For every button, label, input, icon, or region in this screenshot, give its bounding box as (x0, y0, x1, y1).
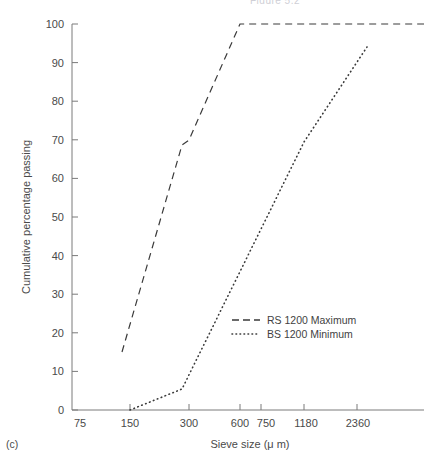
y-tick-label: 60 (52, 172, 64, 184)
chart-figure: Figure 5.2 100 90 80 70 60 (0, 0, 441, 467)
x-tick-label: 600 (231, 417, 249, 429)
x-tick-label: 1180 (294, 417, 318, 429)
x-tick-label: 300 (180, 417, 198, 429)
y-tick-label: 20 (52, 327, 64, 339)
axis-lines (72, 24, 424, 410)
y-tick-label: 50 (52, 211, 64, 223)
series-line-maximum (122, 24, 424, 352)
x-tick-label: 750 (257, 417, 275, 429)
y-tick-label: 70 (52, 134, 64, 146)
y-tick-label: 0 (58, 404, 64, 416)
x-tick-label: 2360 (346, 417, 370, 429)
x-axis-ticks (130, 404, 357, 410)
chart-legend: RS 1200 Maximum BS 1200 Minimum (232, 314, 357, 340)
chart-plot-area: 100 90 80 70 60 50 40 30 20 10 0 Cumulat… (0, 0, 441, 467)
y-tick-label: 30 (52, 288, 64, 300)
x-axis-title: Sieve size (μ m) (210, 438, 289, 450)
y-tick-label: 90 (52, 57, 64, 69)
y-tick-label: 100 (46, 18, 64, 30)
panel-label: (c) (6, 438, 18, 450)
y-tick-label: 80 (52, 95, 64, 107)
x-tick-label: 150 (121, 417, 139, 429)
series-line-minimum (130, 47, 367, 410)
y-axis-ticks (72, 24, 78, 410)
legend-label-minimum: BS 1200 Minimum (267, 328, 353, 340)
x-tick-labels: 75 150 300 600 750 1180 2360 (74, 417, 370, 429)
y-axis-title: Cumulative percentage passing (20, 140, 32, 294)
legend-label-maximum: RS 1200 Maximum (267, 314, 357, 326)
x-tick-label: 75 (74, 417, 86, 429)
y-tick-labels: 100 90 80 70 60 50 40 30 20 10 0 (46, 18, 64, 416)
y-tick-label: 10 (52, 365, 64, 377)
y-tick-label: 40 (52, 250, 64, 262)
